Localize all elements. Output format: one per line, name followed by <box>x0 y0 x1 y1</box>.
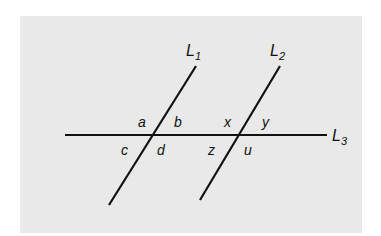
label-L1: L1 <box>186 42 201 62</box>
angle-a: a <box>138 114 146 130</box>
angle-x: x <box>223 114 232 130</box>
label-L2: L2 <box>270 42 285 62</box>
label-L3: L3 <box>332 127 348 147</box>
angle-b: b <box>174 114 182 130</box>
angle-c: c <box>121 142 128 158</box>
diagram-svg: L1 L2 L3 a b c d x y z u <box>0 0 381 236</box>
line-L2 <box>200 66 280 200</box>
angle-z: z <box>207 142 215 158</box>
angle-y: y <box>261 114 270 130</box>
angle-d: d <box>157 142 166 158</box>
angle-u: u <box>244 142 252 158</box>
